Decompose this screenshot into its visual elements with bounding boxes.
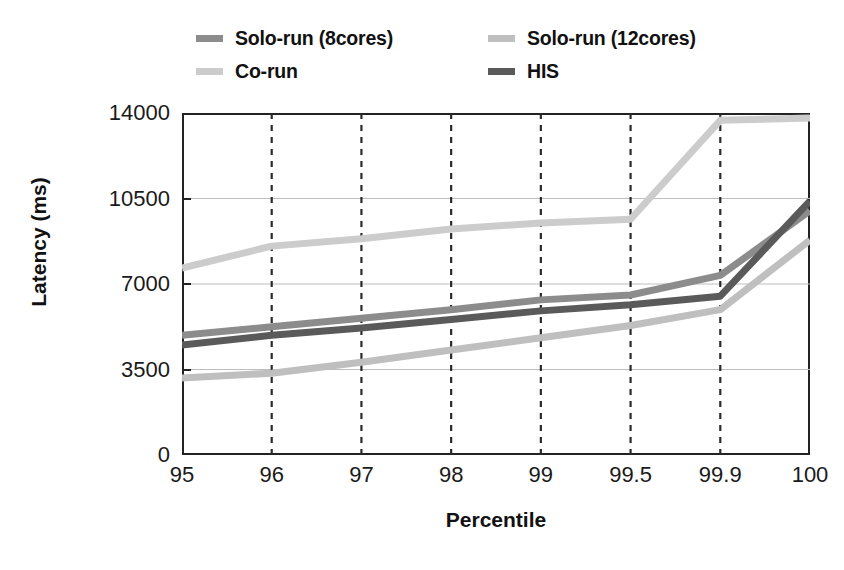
y-tick-label: 3500 (50, 357, 170, 383)
y-axis-title: Latency (ms) (27, 142, 51, 342)
x-axis-title: Percentile (182, 508, 810, 532)
legend-entry-solo-run-12cores: Solo-run (12cores) (488, 27, 666, 50)
legend-label-solo-run-12cores: Solo-run (12cores) (527, 27, 696, 50)
chart-legend: Solo-run (8cores) Solo-run (12cores) Co-… (196, 22, 666, 88)
plot-area (182, 113, 810, 455)
y-tick-mark (182, 369, 191, 371)
legend-label-his: HIS (527, 60, 559, 83)
series-line-solo-run-12cores (182, 240, 810, 378)
plot-lines (182, 113, 810, 455)
legend-swatch-solo-run-12cores (488, 35, 515, 42)
y-tick-mark (182, 198, 191, 200)
legend-swatch-his (488, 68, 515, 75)
legend-entry-his: HIS (488, 60, 666, 83)
legend-label-co-run: Co-run (235, 60, 298, 83)
legend-entry-co-run: Co-run (196, 60, 488, 83)
y-axis-tick-labels: 0350070001050014000 (42, 113, 170, 455)
x-axis-tick-labels: 959697989999.599.9100 (182, 462, 810, 496)
legend-label-solo-run-8cores: Solo-run (8cores) (235, 27, 393, 50)
x-tick-label: 99.5 (586, 462, 676, 488)
x-tick-label: 96 (227, 462, 317, 488)
y-tick-label: 7000 (50, 271, 170, 297)
legend-swatch-co-run (196, 68, 223, 75)
x-tick-label: 99.9 (675, 462, 765, 488)
x-tick-label: 95 (137, 462, 227, 488)
x-tick-label: 100 (765, 462, 844, 488)
legend-entry-solo-run-8cores: Solo-run (8cores) (196, 27, 488, 50)
series-line-co-run (182, 118, 810, 268)
y-tick-mark (182, 283, 191, 285)
y-tick-label: 14000 (50, 100, 170, 126)
chart-figure: Solo-run (8cores) Solo-run (12cores) Co-… (0, 0, 844, 570)
legend-swatch-solo-run-8cores (196, 35, 223, 42)
x-tick-label: 99 (496, 462, 586, 488)
x-tick-label: 97 (316, 462, 406, 488)
y-tick-label: 10500 (50, 186, 170, 212)
x-tick-label: 98 (406, 462, 496, 488)
